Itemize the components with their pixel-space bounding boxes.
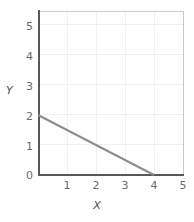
x-tick-label-1: 1	[59, 180, 75, 191]
data-line-series-1	[38, 115, 154, 175]
x-axis-title: X	[0, 200, 194, 211]
y-tick-label-2: 2	[19, 111, 33, 122]
y-tick-label-4: 4	[19, 51, 33, 62]
y-axis-title: Y	[6, 85, 13, 96]
y-tick-label-0: 0	[19, 170, 33, 181]
x-tick-label-3: 3	[117, 180, 133, 191]
plot-frame-right	[183, 11, 184, 176]
y-tick-label-1: 1	[19, 141, 33, 152]
x-tick-label-4: 4	[146, 180, 162, 191]
data-series-svg	[38, 11, 183, 175]
x-tick-label-2: 2	[88, 180, 104, 191]
y-tick-label-5: 5	[19, 21, 33, 32]
chart-figure: 5 4 3 2 1 0 1 2 3 4 5 Y X	[0, 0, 194, 222]
y-tick-label-3: 3	[19, 81, 33, 92]
x-tick-label-5: 5	[175, 180, 191, 191]
